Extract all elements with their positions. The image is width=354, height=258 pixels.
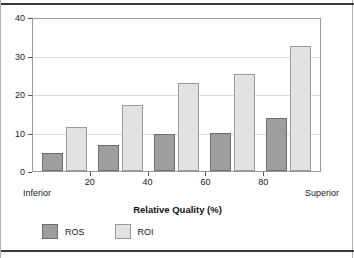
bar-group [149, 19, 205, 171]
legend-swatch-ros [42, 224, 58, 239]
bar-roi-10 [66, 127, 87, 171]
bar-ros-90 [266, 118, 287, 171]
x-axis-tick-label: 20 [85, 177, 95, 187]
y-axis-tick-label: 30 [15, 52, 25, 62]
x-axis-tick-label: 40 [143, 177, 153, 187]
bar-roi-90 [290, 46, 311, 171]
legend-label-ros: ROS [65, 227, 85, 237]
bar-ros-30 [98, 145, 119, 171]
bar-roi-30 [122, 105, 143, 171]
bar-ros-70 [210, 133, 231, 172]
bar-ros-50 [154, 134, 175, 171]
legend: ROSROI [42, 224, 154, 239]
plot-area [32, 18, 321, 172]
y-axis-tick-label: 0 [20, 167, 25, 177]
bar-roi-70 [234, 74, 255, 171]
x-axis-tick-mark [90, 172, 91, 176]
x-axis-title: Relative Quality (%) [1, 204, 354, 215]
x-axis-tick-mark [205, 172, 206, 176]
legend-label-roi: ROI [138, 227, 154, 237]
x-axis-tick-label: 60 [200, 177, 210, 187]
x-axis-tick-label: 80 [258, 177, 268, 187]
bar-ros-10 [42, 153, 63, 171]
x-axis-end-label-left: Inferior [23, 188, 51, 198]
figure-bottom-rule [1, 250, 354, 252]
bar-roi-50 [178, 83, 199, 171]
x-axis-end-label-right: Superior [305, 188, 339, 198]
y-axis-tick-label: 10 [15, 129, 25, 139]
figure-top-rule [1, 3, 354, 5]
x-axis: 20406080 [32, 172, 321, 188]
x-axis-tick-mark [148, 172, 149, 176]
y-axis: 010203040 [1, 18, 32, 172]
bar-group [260, 19, 316, 171]
x-axis-tick-mark [263, 172, 264, 176]
legend-swatch-roi [115, 224, 131, 239]
bar-group [93, 19, 149, 171]
bar-group [204, 19, 260, 171]
y-axis-tick-label: 40 [15, 13, 25, 23]
legend-item-ros[interactable]: ROS [42, 224, 85, 239]
y-axis-tick-label: 20 [15, 90, 25, 100]
legend-item-roi[interactable]: ROI [115, 224, 154, 239]
bar-group [37, 19, 93, 171]
bar-series-container [33, 19, 320, 171]
